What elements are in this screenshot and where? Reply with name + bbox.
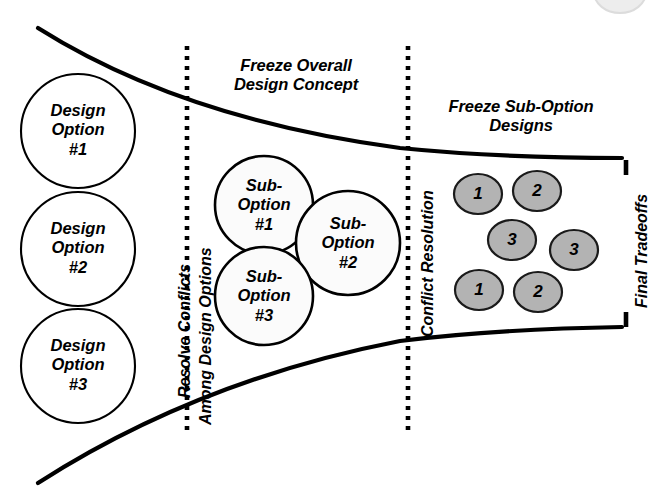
final-item-number-5: 1 (459, 280, 499, 300)
sub-option-label-2: Sub- Option #2 (298, 214, 398, 272)
divider-label-resolve-conflicts: Resolve Conflicts (176, 264, 194, 398)
diagram-canvas: Freeze Overall Design Concept Freeze Sub… (0, 0, 659, 502)
partial-ellipse-artifact (594, 0, 646, 13)
phase-heading-freeze-overall-design-concept: Freeze Overall Design Concept (205, 56, 387, 95)
design-option-label-1: Design Option #1 (22, 101, 134, 159)
final-item-number-4: 3 (554, 240, 594, 260)
design-option-label-2: Design Option #2 (22, 219, 134, 277)
final-item-number-6: 2 (518, 282, 558, 302)
divider-label-conflict-resolution: Conflict Resolution (419, 190, 437, 337)
final-item-number-1: 1 (458, 184, 498, 204)
final-item-number-3: 3 (492, 230, 532, 250)
final-item-number-2: 2 (517, 181, 557, 201)
phase-heading-freeze-sub-option-designs: Freeze Sub-Option Designs (422, 97, 620, 136)
divider-label-among-design-options: Among Design Options (197, 247, 215, 425)
design-option-label-3: Design Option #3 (22, 336, 134, 394)
divider-label-final-tradeoffs: Final Tradeoffs (633, 194, 651, 308)
sub-option-label-3: Sub- Option #3 (214, 267, 314, 325)
